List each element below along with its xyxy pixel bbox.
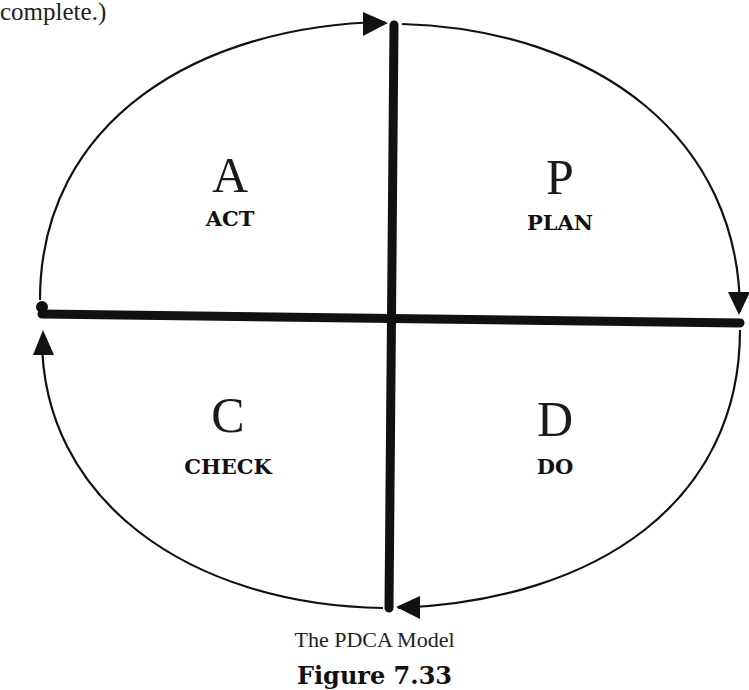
quadrant-plan-word: PLAN — [480, 212, 640, 233]
quadrant-plan-letter: P — [500, 152, 620, 202]
quadrant-check-word: CHECK — [148, 456, 308, 477]
quadrant-act-word: ACT — [150, 208, 310, 229]
figure-label: Figure 7.33 — [0, 661, 749, 690]
arrowhead-right-icon — [728, 292, 749, 315]
quadrant-check-letter: C — [168, 390, 288, 440]
horizontal-axis — [42, 314, 740, 323]
quadrant-do-letter: D — [495, 394, 615, 444]
quadrant-do-word: DO — [475, 456, 635, 477]
arrowhead-left-icon — [33, 330, 54, 355]
quadrant-act-letter: A — [170, 150, 290, 200]
arrowhead-top-icon — [363, 12, 388, 36]
arrowhead-bottom-icon — [396, 596, 420, 619]
diagram-caption: The PDCA Model — [0, 627, 749, 653]
